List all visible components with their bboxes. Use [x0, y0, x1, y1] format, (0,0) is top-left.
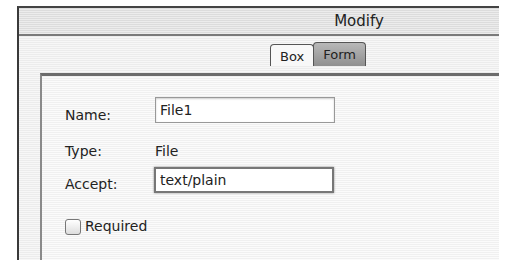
name-label: Name: [65, 107, 111, 123]
tab-form[interactable]: Form [313, 42, 366, 66]
required-checkbox[interactable] [65, 219, 81, 235]
accept-label: Accept: [65, 176, 117, 192]
required-label[interactable]: Required [85, 218, 147, 234]
accept-input[interactable] [154, 167, 334, 193]
name-input[interactable] [155, 97, 335, 123]
type-value: File [155, 143, 178, 159]
window-title: Modify [19, 12, 499, 30]
tab-bar: Box Form [270, 42, 366, 66]
title-bar[interactable]: Modify [19, 8, 499, 36]
tab-box[interactable]: Box [270, 44, 314, 66]
type-label: Type: [65, 143, 102, 159]
